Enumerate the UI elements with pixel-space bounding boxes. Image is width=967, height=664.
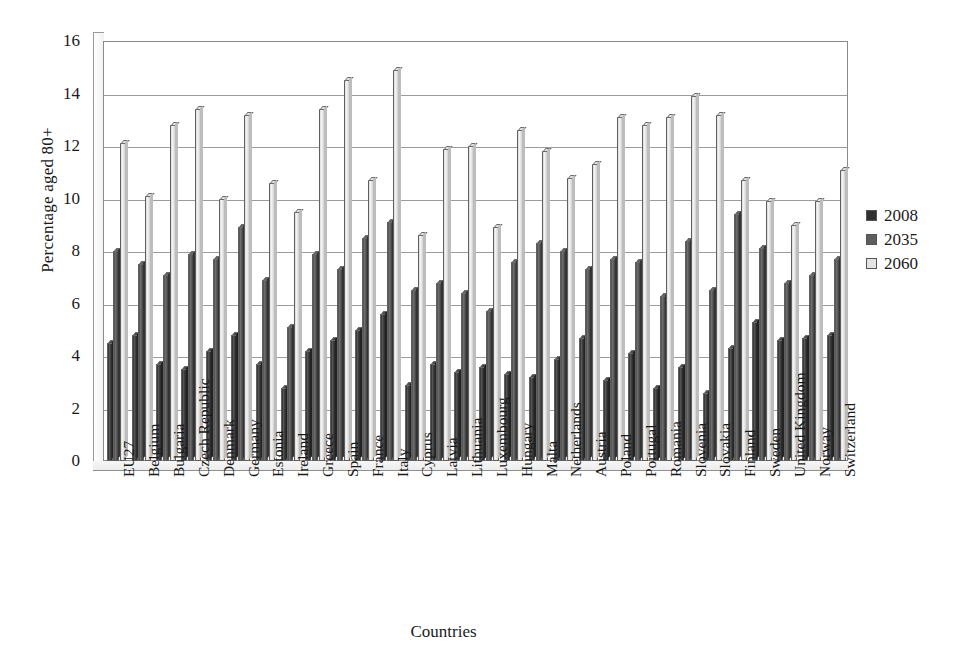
bar-side-face bbox=[771, 198, 774, 458]
bar-group bbox=[305, 41, 324, 461]
bar-2060 bbox=[617, 117, 623, 461]
x-tick-label: Latvia bbox=[444, 437, 460, 477]
bar-2035 bbox=[834, 259, 840, 461]
bar-side-face bbox=[324, 106, 327, 458]
bar-2035 bbox=[138, 264, 144, 461]
y-tick-label-10: 10 bbox=[38, 190, 80, 207]
bar-group bbox=[231, 41, 250, 461]
bar-2035 bbox=[436, 283, 442, 462]
x-axis-title-text: Countries bbox=[410, 622, 476, 641]
y-tick-label-8: 8 bbox=[38, 242, 80, 259]
bar-2035 bbox=[312, 254, 318, 461]
bar-side-face bbox=[746, 177, 749, 458]
x-tick-label: Lithuania bbox=[469, 418, 485, 477]
bar-2060 bbox=[517, 130, 523, 461]
bar-2060 bbox=[244, 115, 250, 462]
x-tick-label: Bulgaria bbox=[171, 424, 187, 477]
bar-2060 bbox=[542, 151, 548, 461]
x-tick-label: Slovenia bbox=[693, 423, 709, 477]
bar-2035 bbox=[685, 241, 691, 462]
bar-side-face bbox=[522, 127, 525, 458]
bar-group bbox=[728, 41, 747, 461]
bar-2060 bbox=[170, 125, 176, 461]
bar-2060 bbox=[815, 201, 821, 461]
y-tick-label-2: 2 bbox=[38, 400, 80, 417]
x-tick-label: Finland bbox=[742, 430, 758, 477]
bar-side-face bbox=[622, 114, 625, 458]
bar-side-face bbox=[820, 198, 823, 458]
bar-2035 bbox=[809, 275, 815, 461]
x-axis-title: Countries bbox=[0, 622, 967, 642]
bar-group bbox=[330, 41, 349, 461]
bar-group bbox=[678, 41, 697, 461]
bar-group bbox=[529, 41, 548, 461]
bar-2035 bbox=[709, 290, 715, 461]
bar-group bbox=[405, 41, 424, 461]
bar-group bbox=[827, 41, 846, 461]
bar-2060 bbox=[443, 149, 449, 461]
legend-swatch-2035-icon bbox=[866, 234, 877, 245]
bar-2060 bbox=[716, 115, 722, 462]
bar-2060 bbox=[592, 164, 598, 461]
bar-2035 bbox=[287, 327, 293, 461]
bar-side-face bbox=[274, 179, 277, 458]
x-tick-label: Poland bbox=[618, 434, 634, 477]
legend-swatch-2060-icon bbox=[866, 258, 877, 269]
bar-side-face bbox=[423, 232, 426, 458]
bar-2035 bbox=[536, 243, 542, 461]
bar-side-face bbox=[249, 111, 252, 458]
bar-2035 bbox=[585, 269, 591, 461]
x-tick-label: Denmark bbox=[221, 419, 237, 477]
bar-2060 bbox=[145, 196, 151, 461]
bar-2035 bbox=[511, 262, 517, 462]
x-tick-label: Cyprus bbox=[419, 432, 435, 477]
x-tick-label: Germany bbox=[246, 419, 262, 477]
bar-chart: Percentage aged 80+ 0246810121416 EU27Be… bbox=[0, 0, 967, 664]
bar-group bbox=[454, 41, 473, 461]
bar-2060 bbox=[666, 117, 672, 461]
bar-2060 bbox=[319, 109, 325, 461]
y-tick-label-14: 14 bbox=[38, 85, 80, 102]
bar-2060 bbox=[269, 183, 275, 461]
bar-group bbox=[579, 41, 598, 461]
bar-group bbox=[156, 41, 175, 461]
bar-2035 bbox=[784, 283, 790, 462]
bar-side-face bbox=[175, 122, 178, 458]
legend-label-2008: 2008 bbox=[884, 207, 918, 224]
bar-2060 bbox=[741, 180, 747, 461]
legend-item-2060: 2060 bbox=[866, 251, 918, 275]
bar-side-face bbox=[721, 111, 724, 458]
bar-side-face bbox=[150, 193, 153, 458]
x-tick-label: Belgium bbox=[146, 424, 162, 477]
x-tick-label: EU27 bbox=[121, 441, 137, 477]
bar-2035 bbox=[163, 275, 169, 461]
bar-group bbox=[703, 41, 722, 461]
bar-group bbox=[355, 41, 374, 461]
bar-2035 bbox=[411, 290, 417, 461]
x-tick-label: Romania bbox=[668, 421, 684, 477]
x-tick-label: Malta bbox=[544, 441, 560, 477]
x-tick-label: Hungary bbox=[519, 423, 535, 477]
x-tick-label: Luxembourg bbox=[494, 397, 510, 477]
bar-2035 bbox=[213, 259, 219, 461]
bar-group bbox=[256, 41, 275, 461]
legend-label-2035: 2035 bbox=[884, 231, 918, 248]
bar-2008 bbox=[107, 343, 113, 461]
bar-2035 bbox=[387, 222, 393, 461]
bar-2035 bbox=[759, 248, 765, 461]
x-tick-label: Sweden bbox=[767, 428, 783, 477]
bar-2060 bbox=[766, 201, 772, 461]
bar-2060 bbox=[344, 80, 350, 461]
bar-2035 bbox=[188, 254, 194, 461]
bar-2035 bbox=[734, 214, 740, 461]
bar-2060 bbox=[294, 212, 300, 461]
bar-2035 bbox=[238, 227, 244, 461]
bar-group bbox=[628, 41, 647, 461]
bar-group bbox=[430, 41, 449, 461]
bar-side-face bbox=[696, 93, 699, 458]
bar-2035 bbox=[560, 251, 566, 461]
x-tick-label: Norway bbox=[817, 427, 833, 477]
bar-group bbox=[132, 41, 151, 461]
bar-2035 bbox=[486, 311, 492, 461]
x-tick-label: Spain bbox=[345, 442, 361, 477]
